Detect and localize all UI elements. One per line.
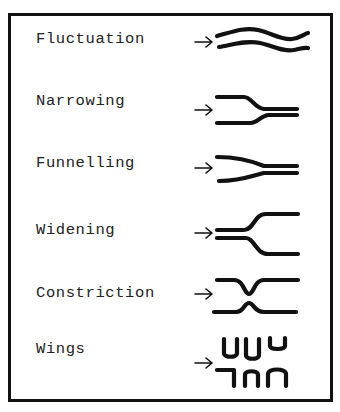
label-fluctuation: Fluctuation	[36, 30, 145, 48]
label-funnelling: Funnelling	[36, 154, 135, 172]
arrow-right-icon	[195, 289, 212, 299]
label-constriction: Constriction	[36, 284, 155, 302]
label-widening: Widening	[36, 221, 115, 239]
constriction-lines-icon	[192, 272, 317, 320]
wings-lines-icon	[192, 333, 317, 393]
label-wings: Wings	[36, 340, 86, 358]
narrowing-lines-icon	[192, 90, 317, 130]
arrow-right-icon	[195, 228, 212, 238]
fluctuation-wavy-lines-icon	[192, 22, 317, 62]
arrow-right-icon	[195, 37, 212, 47]
widening-lines-icon	[192, 206, 317, 261]
funnelling-lines-icon	[192, 148, 317, 188]
arrow-right-icon	[195, 358, 212, 368]
arrow-right-icon	[195, 163, 212, 173]
arrow-right-icon	[195, 105, 212, 115]
label-narrowing: Narrowing	[36, 92, 125, 110]
